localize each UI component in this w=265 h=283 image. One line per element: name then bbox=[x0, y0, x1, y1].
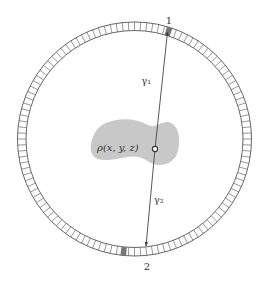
detector-segment bbox=[198, 227, 203, 234]
detector-segment bbox=[163, 244, 165, 252]
detector-segment bbox=[241, 162, 249, 164]
detector-segment bbox=[234, 91, 242, 94]
detector-segment bbox=[76, 38, 80, 45]
detector-segment bbox=[238, 103, 246, 106]
detector-segment bbox=[242, 121, 250, 122]
detector-segment bbox=[19, 121, 27, 122]
detector-2-highlight bbox=[120, 247, 126, 256]
detector-segment bbox=[207, 52, 213, 58]
detector-segment bbox=[173, 240, 176, 248]
detector-segment bbox=[168, 242, 171, 250]
detector-segment bbox=[211, 216, 217, 222]
detector-segment bbox=[146, 23, 147, 31]
detector-segment bbox=[225, 75, 232, 80]
detector-segment bbox=[239, 167, 247, 169]
detector-segment bbox=[28, 183, 36, 186]
detector-segment bbox=[189, 38, 193, 45]
detector-segment bbox=[56, 52, 62, 58]
detector-segment bbox=[18, 127, 26, 128]
detector-segment bbox=[116, 246, 117, 254]
detector-segment bbox=[194, 41, 199, 48]
detector-segment bbox=[110, 25, 112, 33]
detector-segment bbox=[236, 97, 244, 100]
detector-segment bbox=[116, 23, 117, 31]
detector-segment bbox=[23, 173, 31, 176]
detector-segment bbox=[198, 44, 203, 51]
detector-segment bbox=[98, 28, 101, 36]
detector-segment bbox=[189, 233, 193, 240]
detector-segment bbox=[66, 227, 71, 234]
gamma-2-label: γ₂ bbox=[154, 194, 164, 205]
detector-segment bbox=[30, 86, 38, 90]
detector-segment bbox=[219, 207, 226, 212]
detector-segment bbox=[194, 230, 199, 237]
detector-segment bbox=[238, 173, 246, 176]
detector-segment bbox=[20, 162, 28, 164]
detector-segment bbox=[87, 238, 90, 246]
detector-segment bbox=[239, 109, 247, 111]
density-function-label: ρ(x, y, z) bbox=[96, 142, 139, 153]
detector-segment bbox=[40, 70, 47, 75]
detector-segment bbox=[122, 23, 123, 31]
detector-segment bbox=[203, 48, 208, 55]
detector-segment bbox=[241, 115, 249, 117]
detector-segment bbox=[215, 61, 221, 67]
detector-segment bbox=[81, 236, 85, 244]
detector-segment bbox=[44, 65, 51, 70]
detector-segment bbox=[242, 127, 250, 128]
detector-segment bbox=[81, 35, 85, 43]
detector-segment bbox=[184, 35, 188, 43]
detector-segment bbox=[61, 223, 66, 230]
detector-segment bbox=[33, 193, 40, 197]
detector-segment bbox=[93, 240, 96, 248]
detector-segment bbox=[228, 193, 235, 197]
detector-segment bbox=[234, 183, 242, 186]
detector-segment bbox=[93, 30, 96, 38]
detector-segment bbox=[231, 86, 239, 90]
detector-segment bbox=[25, 97, 33, 100]
detector-segment bbox=[52, 56, 58, 62]
detector-segment bbox=[163, 26, 165, 34]
detector-segment bbox=[157, 245, 159, 253]
detector-segment bbox=[36, 198, 43, 203]
detector-segment bbox=[179, 238, 182, 246]
detector-segment bbox=[25, 178, 33, 181]
detector-segment bbox=[36, 75, 43, 80]
detector-segment bbox=[151, 23, 152, 31]
detector-segment bbox=[228, 81, 235, 85]
detector-segment bbox=[18, 150, 26, 151]
detector-segment bbox=[225, 198, 232, 203]
detector-segment bbox=[20, 115, 28, 117]
detector-segment bbox=[56, 220, 62, 226]
detector-segment bbox=[219, 65, 226, 70]
detector-1-label: 1 bbox=[166, 15, 172, 26]
detector-segment bbox=[66, 44, 71, 51]
detector-segment bbox=[151, 246, 152, 254]
detector-segment bbox=[242, 150, 250, 151]
detector-segment bbox=[184, 236, 188, 244]
detector-segment bbox=[61, 48, 66, 55]
detector-segment bbox=[23, 103, 31, 106]
detector-segment bbox=[40, 203, 47, 208]
detector-segment bbox=[231, 188, 239, 192]
detector-segment bbox=[71, 41, 76, 48]
detector-segment bbox=[52, 216, 58, 222]
detector-segment bbox=[207, 220, 213, 226]
detector-segment bbox=[211, 56, 217, 62]
detector-segment bbox=[104, 26, 106, 34]
detector-segment bbox=[222, 203, 229, 208]
pet-ring-diagram: 1 2 γ₁ γ₂ ρ(x, y, z) bbox=[0, 0, 265, 283]
detector-segment bbox=[44, 207, 51, 212]
detector-1-highlight bbox=[165, 27, 173, 37]
detector-segment bbox=[179, 32, 182, 40]
detector-segment bbox=[173, 30, 176, 38]
detector-segment bbox=[146, 247, 147, 255]
detector-segment bbox=[30, 188, 38, 192]
detector-segment bbox=[203, 223, 208, 230]
detector-segment bbox=[76, 233, 80, 240]
detector-segment bbox=[48, 212, 54, 218]
detector-segment bbox=[28, 91, 36, 94]
gamma-1-label: γ₁ bbox=[142, 75, 152, 86]
detector-segment bbox=[104, 244, 106, 252]
detector-segment bbox=[33, 81, 40, 85]
